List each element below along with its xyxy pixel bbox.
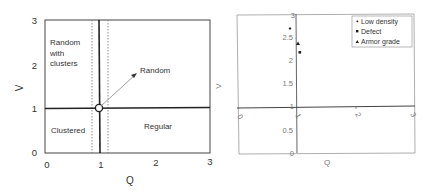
figure: 3 2 1 0 0 1 2 3 Q V Random with clusters… xyxy=(0,0,432,193)
left-chart: 3 2 1 0 0 1 2 3 Q V Random with clusters… xyxy=(14,15,213,186)
right-xlabel: Q xyxy=(324,158,330,167)
region-random-clusters-line3: clusters xyxy=(50,59,78,68)
right-ytick-2-5: 2.5 xyxy=(283,33,293,42)
right-xtick-2: 2 xyxy=(353,111,363,119)
right-ylabel: V xyxy=(214,83,223,89)
right-ytick-1: 1 xyxy=(290,102,294,111)
right-ytick-0-5: 0.5 xyxy=(283,126,293,135)
left-xtick-2: 2 xyxy=(153,157,158,168)
legend-low-density: Low density xyxy=(361,18,398,26)
point-low-density xyxy=(289,27,292,30)
left-xlabel: Q xyxy=(126,175,134,186)
right-y-axis xyxy=(296,14,297,153)
right-xtick-0: 0 xyxy=(235,113,245,121)
left-ytick-3: 3 xyxy=(32,15,37,26)
left-xtick-3: 3 xyxy=(207,156,212,167)
left-ytick-2: 2 xyxy=(32,60,37,71)
right-ytick-0: 0 xyxy=(290,149,294,158)
region-random-clusters-line2: with xyxy=(49,49,64,58)
legend-defect: Defect xyxy=(361,28,381,35)
legend: Low density Defect Armor grade xyxy=(352,16,412,47)
right-ytick-2: 2 xyxy=(289,56,293,65)
right-ytick-1-5: 1.5 xyxy=(283,79,293,88)
point-defect xyxy=(299,51,302,54)
region-random: Random xyxy=(140,66,171,75)
region-random-clusters-line1: Random xyxy=(50,38,81,47)
left-ytick-1: 1 xyxy=(32,103,37,114)
right-xtick-1: 1 xyxy=(293,112,303,120)
right-x-axis xyxy=(237,106,415,108)
region-clustered: Clustered xyxy=(51,126,85,135)
left-xtick-0: 0 xyxy=(44,159,49,170)
legend-armor-grade: Armor grade xyxy=(361,38,400,46)
right-ytick-3: 3 xyxy=(291,11,295,20)
left-ylabel: V xyxy=(14,84,25,91)
right-chart: 3 2.5 2 1.5 1 0.5 0 0 1 2 3 Q V Low dens… xyxy=(214,11,418,167)
vertical-reference-line xyxy=(99,20,100,153)
left-xtick-1: 1 xyxy=(98,159,103,170)
region-regular: Regular xyxy=(144,122,172,131)
horizontal-reference-line xyxy=(45,108,210,109)
arrow-line xyxy=(101,75,135,106)
legend-square-icon xyxy=(356,30,358,32)
left-ytick-0: 0 xyxy=(32,147,37,158)
arrow-head-icon xyxy=(131,73,137,78)
right-xtick-3: 3 xyxy=(408,111,418,119)
